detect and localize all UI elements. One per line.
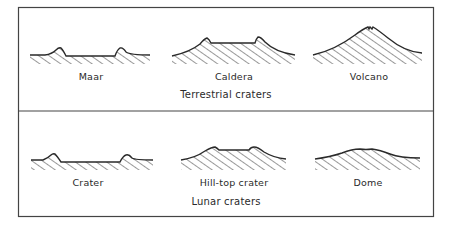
hill-top-crater-profile <box>181 147 286 170</box>
caldera-profile <box>172 37 295 64</box>
figure-drawing <box>0 0 451 225</box>
terrestrial-caption: Terrestrial craters <box>180 90 272 100</box>
dome-label: Dome <box>353 178 382 188</box>
hill-top-crater-label: Hill-top crater <box>200 178 269 188</box>
volcano-profile <box>313 27 422 64</box>
lunar-caption: Lunar craters <box>191 197 260 207</box>
volcano-label: Volcano <box>350 72 389 82</box>
caldera-label: Caldera <box>215 72 253 82</box>
crater-profile <box>31 154 153 170</box>
maar-profile <box>30 48 150 64</box>
maar-label: Maar <box>79 72 104 82</box>
crater-profiles-figure: Maar Caldera Volcano Terrestrial craters… <box>0 0 451 225</box>
crater-label: Crater <box>72 178 103 188</box>
dome-profile <box>315 149 420 170</box>
